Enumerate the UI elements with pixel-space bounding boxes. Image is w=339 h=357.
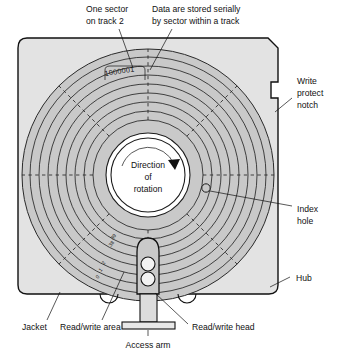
data-serial-label-line1: Data are stored serially (152, 4, 241, 14)
one-sector-label-line1: One sector (86, 4, 128, 14)
index-hole (202, 184, 210, 192)
index-hole-label-line1: Index (297, 204, 319, 214)
direction-label-line2: of (144, 172, 152, 182)
leader-jacket (47, 292, 60, 320)
write-protect-label-line2: protect (297, 88, 324, 98)
read-write-head-label: Read/write head (192, 322, 255, 332)
read-write-area-label: Read/write area (60, 322, 121, 332)
write-protect-label-line1: Write (297, 76, 317, 86)
access-arm-label: Access arm (126, 340, 171, 350)
floppy-disk-figure: Direction of rotation 1000001 39 38 2 1 … (0, 0, 339, 357)
diagram-canvas: Direction of rotation 1000001 39 38 2 1 … (0, 0, 339, 357)
write-protect-label-line3: notch (297, 100, 318, 110)
jacket-label: Jacket (22, 322, 47, 332)
index-hole-label-line2: hole (297, 216, 313, 226)
direction-label-line3: rotation (134, 184, 163, 194)
one-sector-label-line2: on track 2 (86, 16, 124, 26)
data-serial-label-line2: by sector within a track (152, 16, 240, 26)
read-write-head-upper (141, 257, 155, 271)
read-write-head-lower (141, 272, 155, 286)
direction-label-line1: Direction (131, 160, 165, 170)
access-arm-shaft (140, 294, 157, 322)
access-arm-base (122, 322, 175, 329)
hub-label: Hub (296, 273, 312, 283)
